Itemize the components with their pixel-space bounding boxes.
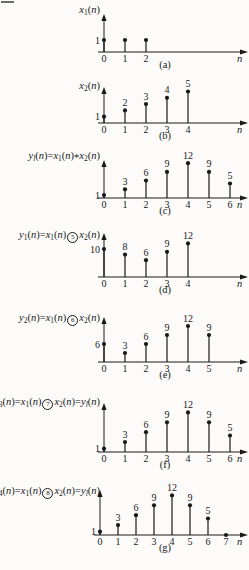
x-tick-label: 0 bbox=[102, 124, 107, 135]
point-value-label: 9 bbox=[207, 322, 212, 333]
x-tick-label: 0 bbox=[102, 363, 107, 374]
y-axis-value-label: 1 bbox=[95, 190, 100, 201]
x-tick-label: 4 bbox=[186, 453, 191, 464]
stem-plots-svg: 0121n(a)0213243541n(b)031629312495561n(c… bbox=[0, 0, 249, 570]
x-tick-label: 5 bbox=[207, 453, 212, 464]
point-value-label: 4 bbox=[165, 84, 170, 95]
x-tick-label: 6 bbox=[228, 199, 233, 210]
subplot-c: 031629312495561n(c) bbox=[95, 150, 248, 217]
convolution-figure: 0121n(a)0213243541n(b)031629312495561n(c… bbox=[0, 0, 249, 570]
y-axis-value-label: 1 bbox=[91, 526, 96, 537]
subplot-caption: (b) bbox=[159, 130, 172, 142]
stem-dot bbox=[165, 96, 169, 100]
point-value-label: 12 bbox=[183, 399, 193, 410]
stem-dot bbox=[186, 324, 190, 328]
point-value-label: 6 bbox=[144, 167, 149, 178]
stem-dot bbox=[102, 342, 106, 346]
x-tick-label: 0 bbox=[102, 278, 107, 289]
stem-dot bbox=[102, 38, 106, 42]
stem-dot bbox=[186, 241, 190, 245]
point-value-label: 6 bbox=[144, 419, 149, 430]
point-value-label: 9 bbox=[207, 409, 212, 420]
stem-dot bbox=[186, 89, 190, 93]
point-value-label: 6 bbox=[144, 247, 149, 258]
x-tick-label: 2 bbox=[144, 124, 149, 135]
stem-dot bbox=[144, 102, 148, 106]
x-tick-label: 2 bbox=[144, 53, 149, 64]
x-tick-label: 1 bbox=[123, 124, 128, 135]
point-value-label: 9 bbox=[165, 322, 170, 333]
point-value-label: 6 bbox=[134, 502, 139, 513]
x-tick-label: 1 bbox=[123, 53, 128, 64]
x-axis-label: n bbox=[237, 124, 242, 135]
x-axis-label: n bbox=[237, 278, 242, 289]
x-tick-label: 6 bbox=[206, 536, 211, 547]
y-axis-arrow-icon bbox=[101, 317, 106, 324]
x-tick-label: 1 bbox=[116, 536, 121, 547]
x-tick-label: 6 bbox=[228, 453, 233, 464]
x-axis-label: n bbox=[237, 453, 242, 464]
point-value-label: 3 bbox=[144, 91, 149, 102]
x-tick-label: 1 bbox=[123, 199, 128, 210]
point-value-label: 5 bbox=[186, 78, 191, 89]
stem-dot bbox=[144, 430, 148, 434]
x-tick-label: 0 bbox=[102, 53, 107, 64]
point-value-label: 2 bbox=[123, 97, 128, 108]
subplot-caption: (a) bbox=[159, 59, 171, 71]
point-value-label: 12 bbox=[183, 150, 193, 161]
x-tick-label: 3 bbox=[152, 536, 157, 547]
x-tick-label: 4 bbox=[186, 124, 191, 135]
x-tick-label: 2 bbox=[144, 363, 149, 374]
stem-dot bbox=[228, 433, 232, 437]
stem-dot bbox=[152, 503, 156, 507]
subplot-caption: (g) bbox=[159, 542, 172, 554]
y-axis-arrow-icon bbox=[101, 233, 106, 240]
point-value-label: 12 bbox=[183, 230, 193, 241]
x-tick-label: 1 bbox=[123, 278, 128, 289]
stem-dot bbox=[102, 447, 106, 451]
stem-dot bbox=[123, 253, 127, 257]
stem-dot bbox=[123, 351, 127, 355]
stem-dot bbox=[116, 523, 120, 527]
subplot-d: 081629312410n(d) bbox=[90, 230, 248, 296]
subplot-a: 0121n(a) bbox=[95, 14, 248, 71]
y-axis-value-label: 1 bbox=[95, 35, 100, 46]
x-tick-label: 5 bbox=[207, 363, 212, 374]
stem-dot bbox=[165, 170, 169, 174]
stem-dot bbox=[188, 503, 192, 507]
x-tick-label: 4 bbox=[186, 199, 191, 210]
stem-dot bbox=[206, 516, 210, 520]
x-tick-label: 0 bbox=[98, 536, 103, 547]
stem-dot bbox=[123, 187, 127, 191]
point-value-label: 6 bbox=[144, 331, 149, 342]
subplot-f: 031629312495561n(f) bbox=[95, 399, 248, 471]
point-value-label: 3 bbox=[123, 176, 128, 187]
x-tick-label: 4 bbox=[186, 278, 191, 289]
stem-dot bbox=[123, 38, 127, 42]
x-tick-label: 2 bbox=[134, 536, 139, 547]
y-axis-arrow-icon bbox=[101, 160, 106, 167]
x-tick-label: 2 bbox=[144, 278, 149, 289]
x-tick-label: 1 bbox=[123, 363, 128, 374]
stem-dot bbox=[102, 247, 106, 251]
subplot-b: 0213243541n(b) bbox=[95, 78, 248, 142]
x-tick-label: 5 bbox=[188, 536, 193, 547]
point-value-label: 9 bbox=[207, 158, 212, 169]
stem-dot bbox=[144, 179, 148, 183]
point-value-label: 5 bbox=[228, 170, 233, 181]
point-value-label: 3 bbox=[123, 429, 128, 440]
stem-dot bbox=[144, 258, 148, 262]
stem-dot bbox=[207, 333, 211, 337]
x-axis-label: n bbox=[237, 53, 242, 64]
stem-dot bbox=[123, 440, 127, 444]
stem-dot bbox=[228, 181, 232, 185]
stem-dot bbox=[98, 530, 102, 534]
point-value-label: 12 bbox=[183, 313, 193, 324]
x-axis-label: n bbox=[237, 536, 242, 547]
stem-dot bbox=[186, 161, 190, 165]
stem-dot bbox=[207, 420, 211, 424]
subplot-caption: (f) bbox=[160, 459, 171, 471]
x-tick-label: 2 bbox=[144, 199, 149, 210]
subplot-g: 0316293124955671n(g) bbox=[91, 482, 248, 554]
y-axis-value-label: 6 bbox=[95, 339, 100, 350]
